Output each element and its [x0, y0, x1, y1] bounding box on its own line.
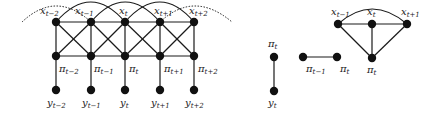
- label-x-t: xt: [367, 6, 376, 19]
- label-pi-t+2: πt+2: [197, 63, 218, 76]
- node-pi-t-1: [87, 52, 95, 60]
- node-pi-t: [333, 53, 341, 61]
- label-x-t+1: xt+1: [401, 6, 420, 19]
- label-x-t-1: xt−1: [75, 5, 94, 18]
- label-y-t+1: yt+1: [150, 97, 170, 110]
- label-pi-t-1: πt−1: [305, 63, 326, 76]
- node-x-t+2: [190, 18, 198, 26]
- clique-edge: [372, 24, 407, 58]
- label-y-t-2: yt−2: [46, 97, 66, 110]
- label-pi-t-1: πt−1: [93, 63, 114, 76]
- node-y-t+1: [156, 86, 164, 94]
- label-x-t: xt: [119, 5, 128, 18]
- label-y-t-1: yt−1: [81, 97, 101, 110]
- label-pi-t: πt: [128, 63, 139, 76]
- node-x-t+1: [156, 18, 164, 26]
- label-pi-t: πt: [339, 63, 350, 76]
- node-pi-t-1: [299, 53, 307, 61]
- label-x-t+2: xt+2: [189, 5, 208, 18]
- node-x-t: [121, 18, 129, 26]
- clique-pi-y: πt yt: [267, 38, 278, 110]
- label-y-t: yt: [119, 97, 129, 110]
- clique-pi-pi: πt−1 πt: [299, 53, 350, 76]
- label-x-t-1: xt−1: [331, 6, 350, 19]
- node-y-t-1: [87, 86, 95, 94]
- node-x-t-1: [334, 20, 342, 28]
- node-x-t+1: [403, 20, 411, 28]
- node-y-t: [270, 87, 278, 95]
- node-y-t+2: [190, 86, 198, 94]
- label-pi-t-2: πt−2: [58, 63, 79, 76]
- node-pi-t: [368, 54, 376, 62]
- graphical-model-figure: xt−2 xt−1 xt xt+1 xt+2 πt−2 πt−1 πt πt+1…: [0, 0, 431, 115]
- node-pi-t-2: [52, 52, 60, 60]
- label-pi-t+1: πt+1: [163, 63, 184, 76]
- label-pi-t: πt: [366, 64, 377, 77]
- node-x-t-1: [87, 18, 95, 26]
- node-y-t: [121, 86, 129, 94]
- node-y-t-2: [52, 86, 60, 94]
- clique-edge: [338, 24, 372, 58]
- node-pi-t+2: [190, 52, 198, 60]
- node-pi-t: [121, 52, 129, 60]
- node-pi-t: [270, 53, 278, 61]
- main-graph: xt−2 xt−1 xt xt+1 xt+2 πt−2 πt−1 πt πt+1…: [22, 2, 232, 110]
- label-y-t: yt: [267, 97, 277, 110]
- node-pi-t+1: [156, 52, 164, 60]
- label-pi-t: πt: [267, 38, 278, 51]
- node-x-t-2: [52, 18, 60, 26]
- label-y-t+2: yt+2: [184, 97, 204, 110]
- label-x-t+1: xt+1: [154, 5, 173, 18]
- node-x-t: [368, 20, 376, 28]
- label-x-t-2: xt−2: [40, 5, 59, 18]
